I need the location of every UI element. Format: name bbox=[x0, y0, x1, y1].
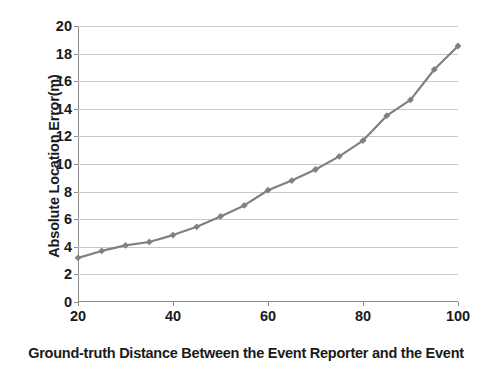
x-axis-tick bbox=[173, 302, 174, 306]
x-axis-tick-label: 80 bbox=[355, 308, 371, 324]
x-axis-tick bbox=[458, 302, 459, 306]
y-axis-tick-label: 6 bbox=[64, 211, 72, 227]
y-axis-tick-label: 8 bbox=[64, 184, 72, 200]
y-axis-tick-label: 20 bbox=[56, 18, 72, 34]
data-point-marker bbox=[193, 223, 200, 230]
y-axis-tick-label: 16 bbox=[56, 73, 72, 89]
chart-figure: Absolute Location Error(m) 0246810121416… bbox=[0, 0, 492, 376]
x-axis-tick bbox=[78, 302, 79, 306]
data-point-marker bbox=[217, 213, 224, 220]
data-point-marker bbox=[170, 232, 177, 239]
y-axis-tick-label: 18 bbox=[56, 46, 72, 62]
plot-area: 02468101214161820 20406080100 bbox=[78, 26, 458, 302]
x-axis-tick-label: 20 bbox=[70, 308, 86, 324]
x-axis-tick-label: 100 bbox=[446, 308, 470, 324]
data-series-line bbox=[78, 26, 458, 302]
x-axis-title: Ground-truth Distance Between the Event … bbox=[0, 345, 492, 361]
data-point-marker bbox=[146, 239, 153, 246]
y-axis-tick-label: 2 bbox=[64, 266, 72, 282]
y-axis-tick-label: 14 bbox=[56, 101, 72, 117]
data-point-marker bbox=[288, 177, 295, 184]
y-axis-tick-label: 10 bbox=[56, 156, 72, 172]
y-axis-tick-label: 4 bbox=[64, 239, 72, 255]
data-point-marker bbox=[122, 242, 129, 249]
x-axis-tick bbox=[268, 302, 269, 306]
series-polyline bbox=[78, 46, 458, 258]
series-markers bbox=[75, 43, 462, 262]
y-axis-tick-label: 12 bbox=[56, 128, 72, 144]
data-point-marker bbox=[75, 254, 82, 261]
x-axis-tick bbox=[363, 302, 364, 306]
x-axis-tick-label: 60 bbox=[260, 308, 276, 324]
data-point-marker bbox=[98, 248, 105, 255]
x-axis-tick-label: 40 bbox=[165, 308, 181, 324]
